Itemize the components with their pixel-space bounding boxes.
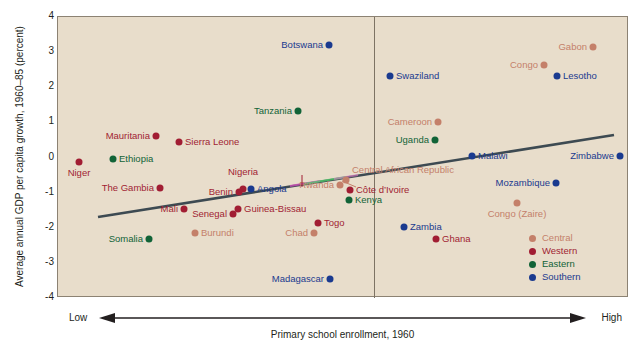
legend-item-label: Eastern — [542, 257, 575, 270]
legend: CentralWesternEasternSouthern — [529, 231, 619, 283]
legend-swatch-dot-icon — [529, 248, 536, 255]
legend-item-label: Western — [542, 244, 577, 257]
legend-swatch-dot-icon — [529, 235, 536, 242]
plot-inner: RwandaCentral African RepublicCameroonCh… — [58, 17, 627, 296]
y-tick-label: -4 — [28, 292, 54, 302]
legend-item[interactable]: Western — [529, 244, 619, 257]
y-tick-label: -1 — [28, 187, 54, 197]
legend-item[interactable]: Eastern — [529, 257, 619, 270]
legend-item-label: Southern — [542, 270, 581, 283]
legend-swatch-dot-icon — [529, 261, 536, 268]
y-tick-label: 2 — [28, 81, 54, 91]
legend-item[interactable]: Central — [529, 231, 619, 244]
scatter-plot-figure: 43210-1-2-3-4 Average annual GDP per cap… — [0, 0, 636, 344]
x-axis: Low High Primary school enrollment, 1960 — [57, 303, 628, 343]
legend-item[interactable]: Southern — [529, 270, 619, 283]
x-axis-high-label: High — [601, 312, 622, 323]
y-tick-label: -3 — [28, 257, 54, 267]
y-tick-label: 4 — [28, 11, 54, 21]
legend-swatch-dot-icon — [529, 274, 536, 281]
y-tick-label: 0 — [28, 152, 54, 162]
x-axis-double-arrow — [57, 311, 628, 325]
x-axis-title: Primary school enrollment, 1960 — [57, 329, 628, 340]
plot-area: RwandaCentral African RepublicCameroonCh… — [57, 16, 628, 297]
y-tick-label: 1 — [28, 116, 54, 126]
y-tick-label: 3 — [28, 46, 54, 56]
y-tick-label: -2 — [28, 222, 54, 232]
legend-item-label: Central — [542, 231, 573, 244]
y-axis-title: Average annual GDP per capita growth, 19… — [14, 16, 28, 297]
